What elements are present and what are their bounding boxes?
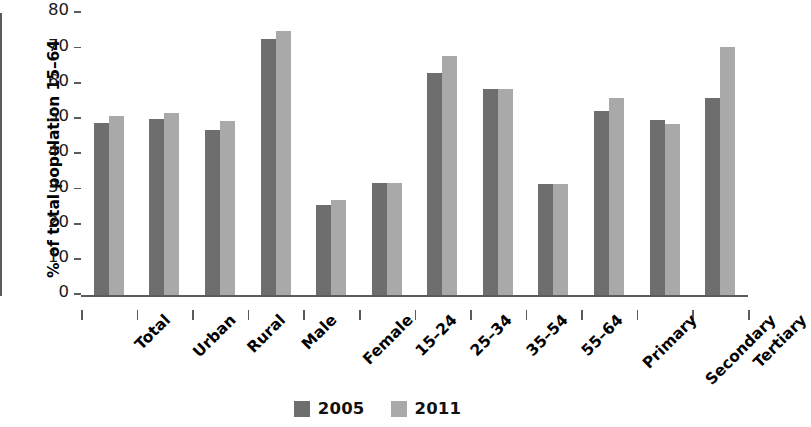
x-axis-tick <box>526 310 528 320</box>
bar <box>427 73 442 295</box>
y-axis-tick: 30 <box>74 188 81 190</box>
bar-group <box>205 13 235 295</box>
y-axis-tick: 20 <box>74 223 81 225</box>
bar-group <box>594 13 624 295</box>
x-axis-label: 15–24 <box>412 311 461 360</box>
legend-label: 2005 <box>318 399 365 418</box>
x-axis-line <box>81 295 748 297</box>
plot-area: 01020304050607080 <box>81 13 748 295</box>
bar <box>316 205 331 295</box>
bar-group <box>483 13 513 295</box>
bar <box>94 123 109 295</box>
x-axis-tick <box>470 310 472 320</box>
bar <box>705 98 720 295</box>
bar <box>261 39 276 295</box>
bar <box>609 98 624 295</box>
x-axis-label: Rural <box>244 311 290 357</box>
x-axis-tick <box>303 310 305 320</box>
bar-group <box>650 13 680 295</box>
x-axis-tick <box>137 310 139 320</box>
y-axis-line <box>0 13 2 296</box>
bar-group <box>149 13 179 295</box>
bar <box>650 120 665 295</box>
bar <box>331 200 346 295</box>
bar <box>387 183 402 295</box>
x-axis-tick <box>248 310 250 320</box>
x-axis-tick <box>192 310 194 320</box>
x-axis-label: Primary <box>639 311 700 372</box>
y-axis-tick: 70 <box>74 47 81 49</box>
bar <box>205 130 220 295</box>
bar <box>553 184 568 295</box>
bar <box>720 47 735 296</box>
y-axis-tick-label: 50 <box>48 106 69 125</box>
bar <box>538 184 553 295</box>
bar <box>164 113 179 295</box>
bar-group <box>538 13 568 295</box>
x-axis-label: Female <box>360 311 417 368</box>
bar-group <box>705 13 735 295</box>
x-axis-tick <box>81 310 83 320</box>
y-axis-tick-label: 20 <box>48 212 69 231</box>
y-axis-tick-label: 60 <box>48 71 69 90</box>
bar-group <box>261 13 291 295</box>
y-axis-tick: 0 <box>74 293 81 295</box>
y-axis-tick: 10 <box>74 258 81 260</box>
y-axis-tick-label: 70 <box>48 36 69 55</box>
bar-group <box>427 13 457 295</box>
bar <box>220 121 235 295</box>
x-axis-label: Urban <box>190 311 240 361</box>
y-axis-tick: 50 <box>74 117 81 119</box>
legend-item: 2011 <box>391 399 462 418</box>
bar <box>372 183 387 295</box>
y-axis-tick: 80 <box>74 11 81 13</box>
legend-label: 2011 <box>415 399 462 418</box>
x-axis-label: 25–34 <box>467 311 516 360</box>
x-axis-label: 35–54 <box>523 311 572 360</box>
y-axis-tick-label: 40 <box>48 141 69 160</box>
chart-legend: 20052011 <box>0 399 755 418</box>
legend-item: 2005 <box>294 399 365 418</box>
x-axis-tick <box>581 310 583 320</box>
y-axis-tick: 60 <box>74 82 81 84</box>
y-axis-tick-label: 0 <box>59 282 70 301</box>
x-axis-tick <box>359 310 361 320</box>
x-axis-label: 55–64 <box>578 311 627 360</box>
y-axis-tick-label: 80 <box>48 0 69 19</box>
x-axis-tick <box>748 310 750 320</box>
y-axis-tick: 40 <box>74 152 81 154</box>
bar-group <box>372 13 402 295</box>
legend-swatch <box>391 401 407 417</box>
bar <box>483 89 498 295</box>
legend-swatch <box>294 401 310 417</box>
bar-group <box>94 13 124 295</box>
bar <box>665 124 680 295</box>
bar <box>276 31 291 295</box>
bar <box>109 116 124 295</box>
bar <box>498 89 513 295</box>
bar <box>594 111 609 295</box>
y-axis-tick-label: 10 <box>48 247 69 266</box>
bar <box>149 119 164 295</box>
bar <box>442 56 457 295</box>
y-axis-tick-label: 30 <box>48 177 69 196</box>
x-axis-tick <box>637 310 639 320</box>
x-axis-tick <box>415 310 417 320</box>
bar-group <box>316 13 346 295</box>
